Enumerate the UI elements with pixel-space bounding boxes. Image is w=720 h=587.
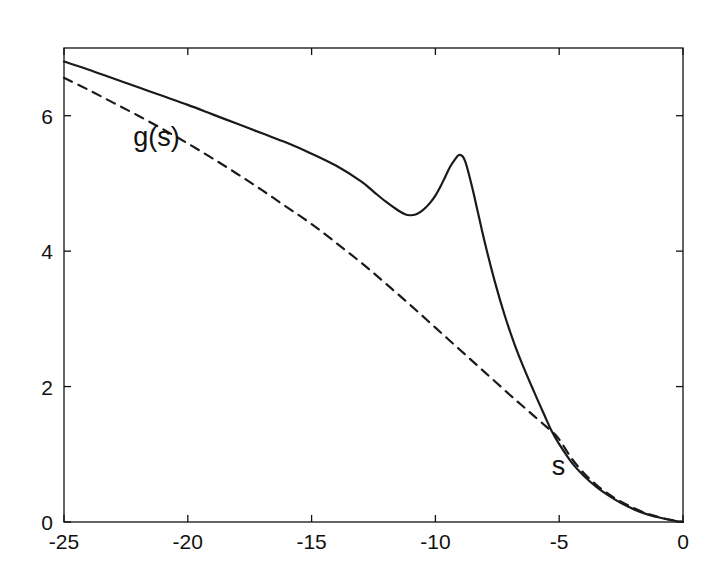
x-tick-label-3: -10 — [420, 530, 450, 553]
y-tick-label-0: 0 — [41, 511, 53, 534]
y-tick-label-1: 2 — [41, 376, 53, 399]
x-tick-label-2: -15 — [296, 530, 326, 553]
x-tick-label-0: -25 — [49, 530, 79, 553]
x-axis-annotation: s — [552, 451, 566, 481]
x-tick-label-5: 0 — [677, 530, 689, 553]
y-axis-annotation: g(s) — [133, 122, 180, 152]
figure-container: -25-20-15-10-50 0246 g(s)s — [0, 0, 720, 587]
y-tick-label-2: 4 — [41, 240, 53, 263]
chart-canvas: -25-20-15-10-50 0246 g(s)s — [0, 0, 720, 587]
y-tick-label-3: 6 — [41, 105, 53, 128]
x-tick-label-4: -5 — [550, 530, 569, 553]
x-tick-label-1: -20 — [173, 530, 203, 553]
